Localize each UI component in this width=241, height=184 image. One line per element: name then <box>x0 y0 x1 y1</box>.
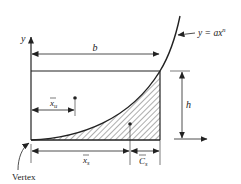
c-s-label: Cs <box>139 156 148 167</box>
y-axis-label: y <box>20 33 26 44</box>
equation-leader-arrow <box>178 33 195 35</box>
centroid-unshaded-dot <box>73 96 77 100</box>
centroid-shaded-dot <box>128 122 132 126</box>
height-label-h: h <box>186 99 191 110</box>
vertex-label: Vertex <box>12 172 36 182</box>
xbar-u-label: xu <box>49 98 58 109</box>
xbar-s-label: xs <box>82 155 90 166</box>
vertex-leader-arrow <box>18 143 29 170</box>
parabolic-spandrel-diagram: y b y = axn h xu xs Cs Vertex <box>0 0 241 184</box>
curve-equation-label: y = axn <box>197 26 226 38</box>
width-label-b: b <box>93 42 98 53</box>
